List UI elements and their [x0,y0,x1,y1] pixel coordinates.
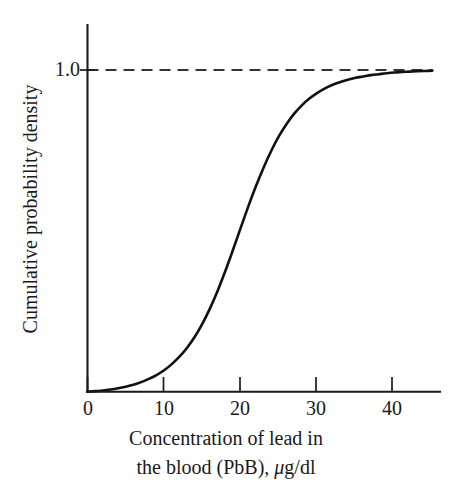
y-axis-label: Cumulative probability density [20,39,48,379]
cumulative-density-curve [88,71,433,392]
x-axis-tick-label-40: 40 [372,398,412,418]
x-axis-label-line-2-suffix: g/dl [284,456,315,478]
x-axis-label-line-2-prefix: the blood (PbB), [137,456,275,478]
x-axis-label-line-2: the blood (PbB), μg/dl [0,453,452,482]
x-axis-label: Concentration of lead in the blood (PbB)… [0,424,452,482]
figure-container: 1.0 0 10 20 30 40 Concentration of lead … [0,0,452,503]
x-axis-tick-label-10: 10 [144,398,184,418]
x-axis-tick-label-0: 0 [68,398,108,418]
x-axis-tick-label-20: 20 [220,398,260,418]
x-axis-label-line-1: Concentration of lead in [0,424,452,453]
micro-symbol: μ [274,456,284,478]
y-axis-tick-label-1: 1.0 [55,59,80,79]
x-axis-tick-label-30: 30 [296,398,336,418]
